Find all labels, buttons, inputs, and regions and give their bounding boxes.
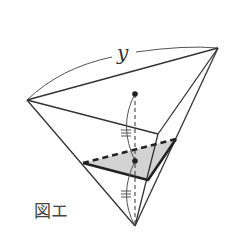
length-label-y: y	[116, 41, 129, 65]
top-point	[132, 91, 138, 97]
edge-left-to-front	[27, 100, 158, 134]
length-arc-y-left	[27, 57, 112, 100]
figure-caption: 図エ	[34, 201, 68, 221]
edge-right-to-apex	[135, 48, 218, 226]
pyramid-cross-section-diagram: y 図エ	[0, 0, 232, 247]
equal-mark-lower	[121, 191, 131, 197]
inner-point	[132, 158, 138, 164]
equal-mark-upper	[121, 130, 131, 136]
edge-right-to-front	[158, 48, 218, 134]
